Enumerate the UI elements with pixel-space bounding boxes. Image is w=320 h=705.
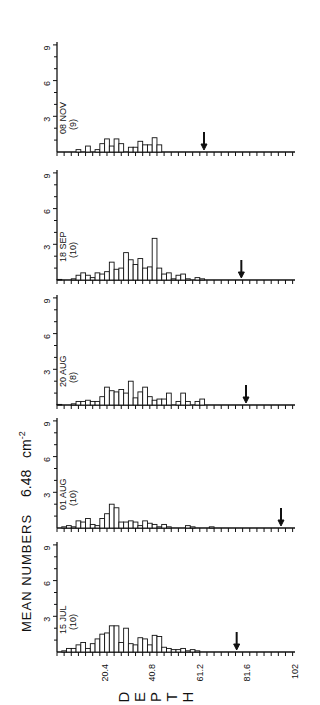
x-axis-label-letter: P [147,692,164,702]
histogram-bar [76,150,81,152]
y-tick-label: 3 [42,617,52,622]
histogram-bar [71,404,76,405]
histogram-bar [147,397,152,405]
histogram-bar [176,275,181,280]
y-tick-label: 9 [42,173,52,178]
histogram-bar [138,141,143,152]
histogram-bar [166,527,171,528]
histogram-bar [71,279,76,280]
histogram-bar [90,524,95,528]
histogram-bar [186,651,191,652]
histogram-bar [195,401,200,405]
histogram-bar [100,274,105,280]
y-tick-label: 6 [42,81,52,86]
histogram-bar [133,147,138,152]
histogram-bar [147,145,152,152]
histogram-bar [76,401,81,405]
histogram-bar [109,504,114,528]
histogram-bar [71,648,76,652]
histogram-bar [119,268,124,280]
y-tick-label: 3 [42,493,52,498]
histogram-bar [86,648,91,652]
histogram-bar [81,522,86,528]
histogram-bar [105,387,110,405]
panel-n-label: (8) [68,372,78,383]
histogram-bar [162,274,167,280]
histogram-bar [124,522,129,528]
histogram-bar [171,650,176,652]
x-tick-label: 81.6 [242,664,252,682]
arrow-head-icon [278,520,284,526]
histogram-bar [143,639,148,652]
histogram-bar [186,526,191,528]
histogram-bar [124,393,129,405]
x-axis-label-letter: H [179,692,196,703]
histogram-bar [133,522,138,528]
histogram-bar [119,522,124,528]
histogram-bar [90,278,95,280]
histogram-bar [181,274,186,280]
histogram-bar [81,642,86,652]
histogram-bar [128,147,133,152]
panel-date-label: 18 SEP [58,231,68,262]
histogram-bar [76,275,81,280]
histogram-bar [171,279,176,280]
histogram-bar [138,638,143,652]
x-tick-label: 102 [290,664,300,679]
histogram-bar [152,238,157,280]
histogram-bar [143,387,148,405]
histogram-bar [152,400,157,405]
histogram-bar [109,262,114,280]
histogram-bar [143,145,148,152]
panel-date-label: 15 JUL [58,605,68,634]
histogram-bar [109,626,114,652]
y-tick-label: 9 [42,421,52,426]
histogram-bar [157,637,162,652]
histogram-bar [105,139,110,152]
histogram-bar [147,523,152,528]
histogram-bar [209,527,214,528]
x-axis-label-letter: T [163,692,180,701]
histogram-bar [157,399,162,405]
x-axis-label-letter: E [131,692,148,702]
histogram-bar [128,381,133,405]
histogram-bar [176,401,181,405]
histogram-bar [138,526,143,528]
histogram-bar [133,398,138,405]
histogram-bar [95,526,100,528]
histogram-panel: 36915 JUL(10) [42,542,295,656]
histogram-bar [95,401,100,405]
histogram-bar [162,399,167,405]
histogram-bar [162,524,167,528]
y-tick-label: 9 [42,298,52,303]
histogram-bar [81,273,86,280]
histogram-bar [114,626,119,652]
histogram-bar [181,393,186,405]
histogram-panel: 36918 SEP(10) [42,170,295,284]
histogram-bar [133,265,138,280]
histogram-bar [128,644,133,652]
arrow-head-icon [243,397,249,403]
histogram-bar [67,648,72,652]
histogram-bar [109,146,114,152]
y-tick-label: 3 [42,117,52,122]
histogram-bar [157,268,162,280]
histogram-bar [100,634,105,652]
histogram-bar [119,642,124,652]
y-axis-density-unit: cm-2 [17,431,34,458]
histogram-bar [157,145,162,152]
histogram-bar [143,268,148,280]
histogram-bar [76,645,81,652]
histogram-bar [147,645,152,652]
histogram-bar [57,404,62,405]
histogram-bar [186,279,191,280]
histogram-bar [100,518,105,528]
histogram-bar [186,401,191,405]
histogram-bar [62,527,67,528]
histogram-bar [105,514,110,528]
histogram-bar [138,392,143,405]
histogram-bar [105,272,110,280]
histogram-bar [200,399,205,405]
y-tick-label: 6 [42,209,52,214]
histogram-bar [162,647,167,652]
